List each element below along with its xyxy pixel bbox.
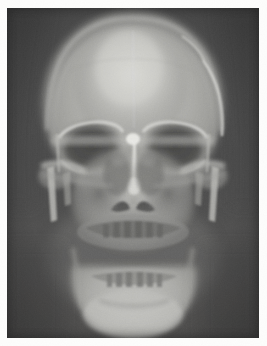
radiograph-plate [7, 8, 259, 338]
film-grain [7, 8, 259, 338]
radiograph-page [0, 0, 267, 346]
skull-radiograph-image [7, 8, 259, 338]
